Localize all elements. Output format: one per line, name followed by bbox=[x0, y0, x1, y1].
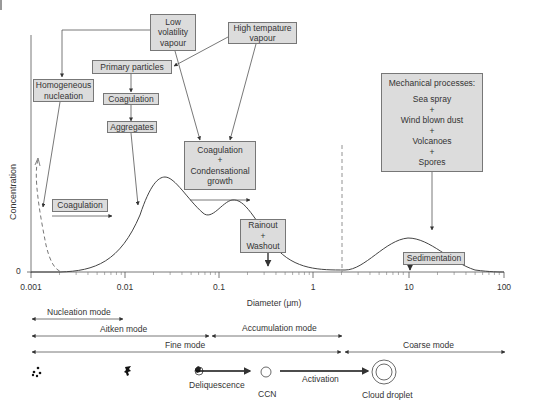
y-axis-label: Concentration bbox=[8, 164, 18, 220]
x-tick: 100 bbox=[497, 282, 511, 292]
coagulation-left-box: Coagulation bbox=[52, 199, 108, 212]
box-line: Wind blown dust bbox=[401, 115, 463, 126]
coagulation-box: Coagulation bbox=[103, 93, 159, 105]
high-temperature-vapour-box: High tempature vapour bbox=[228, 22, 297, 44]
box-line: + bbox=[218, 155, 223, 166]
ccn-label: CCN bbox=[258, 389, 276, 399]
x-tick: 10 bbox=[404, 282, 413, 292]
activation-label: Activation bbox=[302, 374, 339, 384]
box-line: Low bbox=[165, 17, 181, 28]
box-line: Mechanical processes: bbox=[389, 78, 475, 89]
box-line: Coagulation bbox=[57, 200, 102, 211]
rainout-washout-box: Rainout + Washout bbox=[240, 219, 286, 253]
fine-mode-label: Fine mode bbox=[165, 340, 205, 350]
x-axis-label: Diameter (μm) bbox=[247, 298, 301, 308]
box-line: Sea spray bbox=[413, 94, 451, 105]
box-line: volatility bbox=[158, 27, 188, 38]
ccn-icon bbox=[261, 367, 271, 377]
box-line: Coagulation bbox=[108, 94, 153, 105]
box-line: vapour bbox=[250, 33, 276, 44]
box-line: Aggregates bbox=[110, 122, 153, 133]
mechanical-processes-box: Mechanical processes: Sea spray + Wind b… bbox=[381, 73, 483, 172]
box-line: Washout bbox=[246, 241, 279, 252]
x-tick: 1 bbox=[311, 282, 316, 292]
box-line: Homogeneous bbox=[36, 80, 91, 91]
sedimentation-box: Sedimentation bbox=[403, 252, 465, 265]
y-axis bbox=[27, 35, 31, 273]
box-line: nucleation bbox=[44, 91, 83, 102]
homogeneous-nucleation-box: Homogeneous nucleation bbox=[33, 79, 94, 102]
box-line: + bbox=[430, 105, 435, 116]
deliquescence-label: Deliquescence bbox=[189, 380, 245, 390]
nucleation-mode-label: Nucleation mode bbox=[47, 307, 111, 317]
nucleation-particles-icon bbox=[32, 367, 42, 377]
box-line: vapour bbox=[160, 38, 186, 49]
coagulation-condensational-growth-box: Coagulation + Condensational growth bbox=[184, 141, 256, 190]
box-line: Volcanoes bbox=[412, 136, 451, 147]
coarse-mode-label: Coarse mode bbox=[403, 340, 454, 350]
low-volatility-vapour-box: Low volatility vapour bbox=[150, 14, 196, 51]
box-line: Sedimentation bbox=[407, 253, 461, 264]
box-line: Spores bbox=[419, 157, 446, 168]
aitken-mode-label: Aitken mode bbox=[100, 324, 147, 334]
cloud-droplet-icon bbox=[372, 360, 396, 384]
primary-particles-box: Primary particles bbox=[92, 60, 172, 74]
box-line: Condensational bbox=[190, 166, 249, 177]
x-tick: 0.1 bbox=[213, 282, 225, 292]
box-line: Primary particles bbox=[100, 62, 163, 73]
x-tick: 0.01 bbox=[117, 282, 134, 292]
x-axis bbox=[31, 272, 504, 278]
accumulation-mode-label: Accumulation mode bbox=[242, 323, 317, 333]
box-line: growth bbox=[207, 176, 233, 187]
box-line: High tempature bbox=[233, 23, 291, 34]
box-line: + bbox=[430, 126, 435, 137]
aitken-aggregate-icon bbox=[124, 366, 131, 376]
box-line: + bbox=[261, 231, 266, 242]
box-line: + bbox=[430, 147, 435, 158]
x-tick: 0.001 bbox=[20, 282, 41, 292]
y-tick-zero: 0 bbox=[16, 266, 21, 276]
box-line: Coagulation bbox=[197, 145, 242, 156]
cloud-droplet-label: Cloud droplet bbox=[362, 390, 413, 400]
aggregates-box: Aggregates bbox=[107, 121, 157, 133]
box-line: Rainout bbox=[248, 220, 277, 231]
